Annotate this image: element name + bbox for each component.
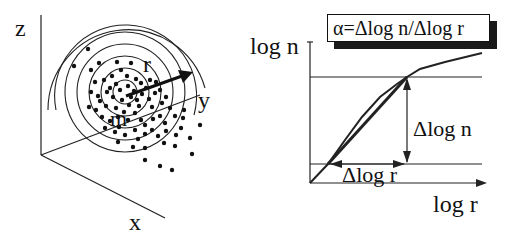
log-r-axis-arrowhead	[476, 179, 487, 187]
scatter-points	[72, 47, 202, 172]
log-r-axis-label: log r	[433, 191, 478, 217]
concentric-rings	[48, 25, 205, 152]
z-axis-label: z	[15, 15, 26, 41]
center-label: m	[110, 106, 127, 131]
slope-formula: α=Δlog n/Δlog r	[333, 17, 464, 39]
radius-label: r	[143, 51, 151, 77]
slope-formula-box: α=Δlog n/Δlog r	[327, 14, 490, 42]
x-axis	[41, 155, 165, 218]
delta-log-n-label: Δlog n	[413, 116, 472, 141]
y-axis-label: y	[198, 87, 210, 113]
log-n-axis-label: log n	[250, 33, 299, 59]
x-axis-label: x	[129, 209, 141, 235]
delta-log-r-label: Δlog r	[342, 162, 398, 187]
slope-secant	[328, 77, 407, 164]
